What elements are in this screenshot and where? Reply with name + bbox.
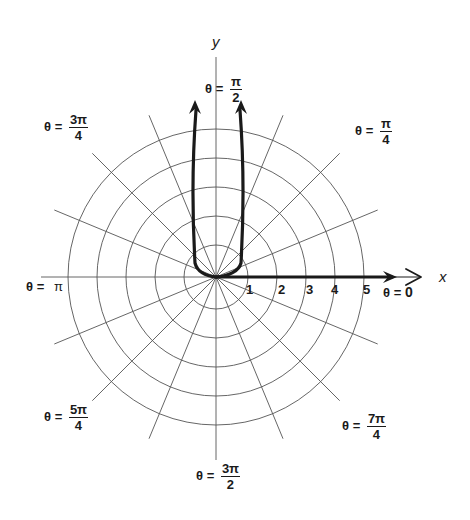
radial-line [216,277,283,439]
radius-tick-5: 5 [363,282,370,297]
radial-line [216,153,340,277]
polar-grid [41,57,378,460]
radius-tick-1: 1 [246,282,253,297]
angle-label-pi-over-4: θ = π4 [355,117,392,146]
radial-line [149,277,216,439]
radial-line [149,115,216,277]
angle-label-3pi-over-2: θ = 3π2 [196,462,240,491]
radial-line [216,277,378,344]
x-axis-label: x [439,268,447,285]
radial-line [92,277,216,401]
angle-label-pi: θ = π [26,280,63,293]
angle-label-7pi-over-4: θ = 7π4 [342,412,386,441]
radius-tick-2: 2 [278,282,285,297]
angle-label-pi-over-2: θ = π2 [205,75,242,104]
u-curve-right-branch [216,110,243,277]
radius-tick-3: 3 [306,282,313,297]
radius-tick-4: 4 [331,282,338,297]
radial-line [216,115,283,277]
angle-label-0: θ = 0 [383,285,413,299]
y-axis-label: y [212,33,220,50]
angle-label-3pi-over-4: θ = 3π4 [44,113,88,142]
angle-label-5pi-over-4: θ = 5π4 [44,403,88,432]
radial-line [54,277,216,344]
radial-line [92,153,216,277]
